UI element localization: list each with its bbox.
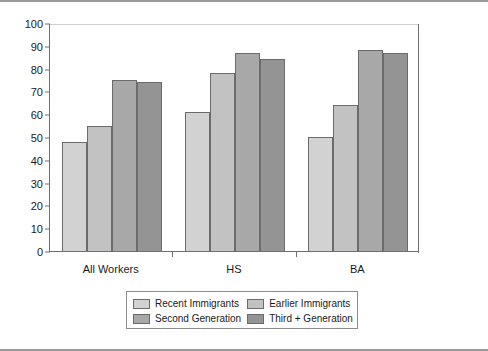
bar: [260, 59, 285, 251]
bar: [383, 53, 408, 251]
bar-group: [50, 24, 173, 251]
x-axis-tick-label: BA: [350, 264, 365, 275]
x-axis-tick-label: All Workers: [83, 264, 139, 275]
legend-swatch-icon: [133, 299, 150, 309]
bar-group: [173, 24, 296, 251]
bar: [235, 53, 260, 251]
chart-legend: Recent ImmigrantsEarlier ImmigrantsSecon…: [126, 291, 358, 329]
bar: [137, 82, 162, 251]
bar: [210, 73, 235, 251]
bar: [87, 126, 112, 251]
legend-item: Earlier Immigrants: [247, 299, 353, 309]
plot-area: 1009080706050403020100: [49, 24, 419, 252]
legend-label: Earlier Immigrants: [269, 299, 350, 309]
legend-label: Third + Generation: [269, 314, 353, 324]
legend-label: Second Generation: [155, 314, 241, 324]
legend-item: Second Generation: [133, 314, 241, 324]
bar: [185, 112, 210, 251]
bar: [358, 50, 383, 251]
x-axis-tick-label: HS: [226, 264, 241, 275]
legend-item: Recent Immigrants: [133, 299, 241, 309]
legend-swatch-icon: [247, 299, 264, 309]
bar: [308, 137, 333, 251]
legend-swatch-icon: [133, 314, 150, 324]
bar-group: [297, 24, 420, 251]
x-axis-tick-mark: [172, 252, 173, 257]
legend-label: Recent Immigrants: [155, 299, 239, 309]
bar: [112, 80, 137, 251]
bar: [333, 105, 358, 251]
x-axis-tick-mark: [296, 252, 297, 257]
bar-series-container: [50, 24, 419, 251]
legend-item: Third + Generation: [247, 314, 353, 324]
legend-swatch-icon: [247, 314, 264, 324]
chart-figure: 1009080706050403020100 All WorkersHSBA R…: [0, 0, 488, 351]
bar: [62, 142, 87, 251]
y-axis-tick-mark: [45, 252, 50, 253]
